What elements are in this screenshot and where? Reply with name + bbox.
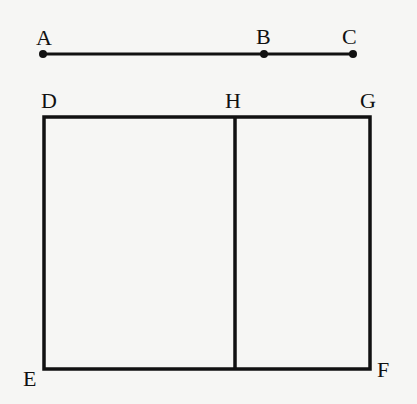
label-a: A <box>36 25 52 50</box>
diagram-canvas: A B C D H G E F <box>0 0 417 404</box>
label-f: F <box>377 357 389 382</box>
label-g: G <box>360 88 376 113</box>
geometry-figure: A B C D H G E F <box>0 0 417 404</box>
label-c: C <box>342 24 357 49</box>
label-d: D <box>41 88 57 113</box>
label-b: B <box>256 24 271 49</box>
label-h: H <box>225 88 241 113</box>
point-c <box>349 50 357 58</box>
label-e: E <box>23 366 36 391</box>
point-b <box>260 50 268 58</box>
rectangle-dgfe <box>44 117 370 369</box>
point-a <box>39 50 47 58</box>
